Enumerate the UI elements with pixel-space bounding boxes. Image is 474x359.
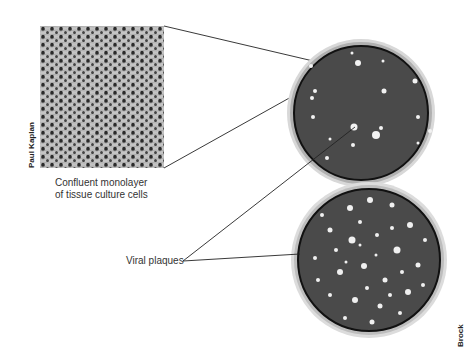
callout-line-to-bottom-plaque <box>183 254 300 261</box>
caption-line-2: of tissue culture cells <box>55 189 148 201</box>
petri-dish-few-plaques <box>287 39 435 187</box>
cell-monolayer-caption: Confluent monolayer of tissue culture ce… <box>55 177 148 201</box>
plaque-assay-figure: Paul Kaplan Confluent monolayer of tissu… <box>0 0 474 359</box>
photo-credit-kaplan: Paul Kaplan <box>27 122 36 168</box>
petri-dish-many-plaques <box>291 182 447 338</box>
viral-plaques-label: Viral plaques <box>126 255 184 267</box>
photo-credit-brock: Brock <box>456 324 465 347</box>
caption-line-1: Confluent monolayer <box>55 177 148 189</box>
